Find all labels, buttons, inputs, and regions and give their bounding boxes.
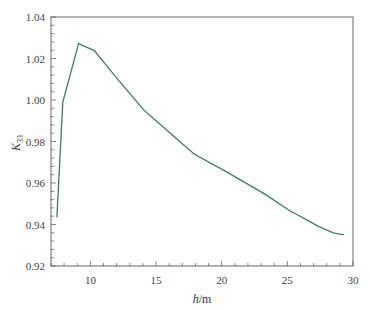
y-tick-label: 0.98 [26, 136, 46, 148]
y-tick-label: 1.00 [26, 94, 46, 106]
line-chart: 0.920.940.960.981.001.021.04 1015202530 … [0, 0, 370, 310]
x-tick-label: 25 [282, 274, 294, 286]
y-tick-label: 0.96 [26, 177, 46, 189]
x-axis-label: h/m [193, 292, 212, 306]
y-tick-label: 0.92 [26, 260, 45, 272]
y-tick-label: 1.04 [26, 11, 46, 23]
x-tick-labels: 1015202530 [85, 274, 359, 286]
x-tick-label: 10 [85, 274, 97, 286]
data-line-k33 [57, 44, 344, 235]
x-tick-label: 15 [151, 274, 163, 286]
y-tick-label: 0.94 [26, 219, 46, 231]
plot-frame [51, 17, 353, 266]
axis-ticks [51, 17, 353, 266]
y-tick-labels: 0.920.940.960.981.001.021.04 [26, 11, 46, 272]
x-tick-label: 30 [348, 274, 360, 286]
y-axis-label: K33 [9, 135, 25, 152]
x-tick-label: 20 [216, 274, 228, 286]
y-tick-label: 1.02 [26, 53, 45, 65]
